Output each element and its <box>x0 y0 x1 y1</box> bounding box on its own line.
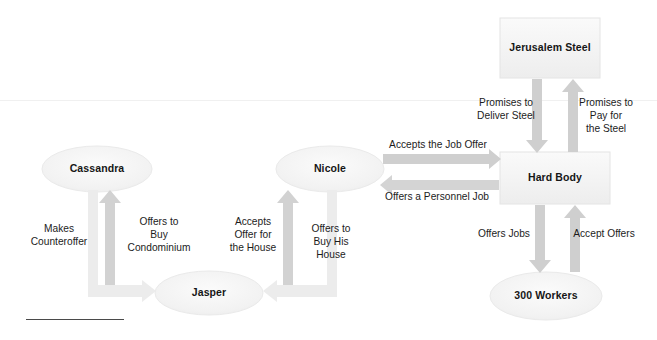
arrow-promises-to-deliver-steel <box>526 79 548 153</box>
node-shape-nicole[interactable] <box>276 146 384 192</box>
arrow-offers-jobs <box>529 205 551 273</box>
arrow-accepts-offer-for-the-house <box>277 190 299 288</box>
node-shape-300-workers[interactable] <box>490 272 602 320</box>
arrow-promises-to-pay-for-the-steel <box>562 79 584 152</box>
node-shape-jasper[interactable] <box>155 271 263 315</box>
arrow-makes-counteroffer <box>88 190 156 302</box>
node-shape-hard-body[interactable] <box>500 152 610 204</box>
arrow-accept-offers <box>564 205 586 272</box>
arrow-accepts-the-job-offer <box>383 149 501 169</box>
node-shape-cassandra[interactable] <box>42 146 152 192</box>
diagram-shapes-layer <box>0 0 657 340</box>
diagram-canvas: Jerusalem Steel Cassandra Nicole Hard Bo… <box>0 0 657 340</box>
arrow-offers-a-personnel-job <box>380 175 499 195</box>
footnote-separator-rule <box>26 319 124 320</box>
arrow-offers-to-buy-his-house <box>263 190 337 302</box>
node-shape-jerusalem-steel[interactable] <box>500 18 600 78</box>
arrow-offers-to-buy-condominium <box>99 190 121 288</box>
